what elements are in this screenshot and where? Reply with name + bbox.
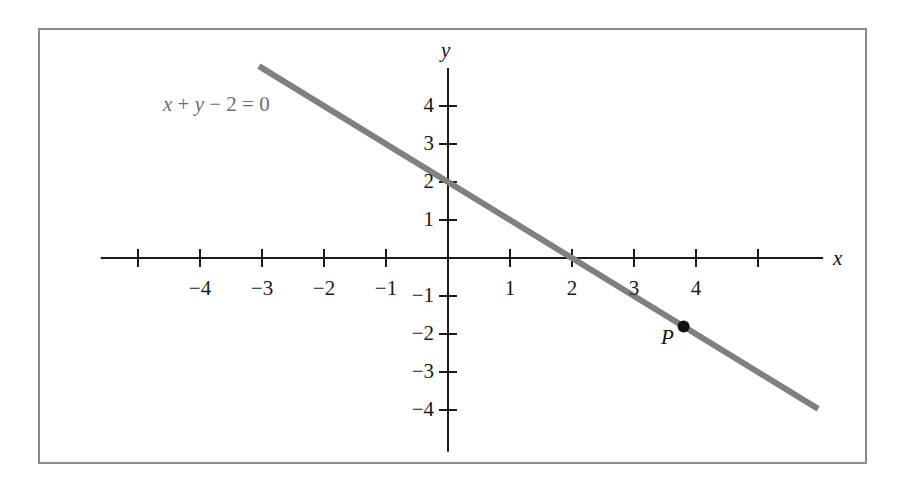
y-tick-label: −2 xyxy=(394,323,434,344)
x-tick-label: 4 xyxy=(676,278,716,299)
data-points-group xyxy=(678,320,690,332)
x-tick-label: −2 xyxy=(304,278,344,299)
y-tick-label: 4 xyxy=(394,95,434,116)
axes-group xyxy=(101,68,823,452)
equation-plus-operator: + xyxy=(172,92,194,116)
equation-x-term: x xyxy=(163,92,172,116)
x-tick-label: −3 xyxy=(242,278,282,299)
coordinate-plot xyxy=(0,0,902,489)
x-tick-label: 3 xyxy=(614,278,654,299)
plotted-line xyxy=(259,66,818,409)
y-tick-label: −3 xyxy=(394,361,434,382)
data-point-marker xyxy=(678,320,690,332)
y-tick-label: 3 xyxy=(394,133,434,154)
line-series-group xyxy=(259,66,818,409)
y-axis-label: y xyxy=(441,38,450,63)
equation-annotation: x + y − 2 = 0 xyxy=(163,92,270,117)
equation-remainder: − 2 = 0 xyxy=(204,92,270,116)
x-tick-label: 1 xyxy=(490,278,530,299)
x-axis-label: x xyxy=(833,246,842,271)
figure-container: x + y − 2 = 0 P x y −4−3−2−112344321−1−2… xyxy=(0,0,902,489)
y-tick-label: −1 xyxy=(394,285,434,306)
y-tick-label: 2 xyxy=(394,171,434,192)
y-tick-label: 1 xyxy=(394,209,434,230)
y-tick-label: −4 xyxy=(394,399,434,420)
point-p-label: P xyxy=(661,325,674,350)
x-tick-label: −4 xyxy=(180,278,220,299)
equation-y-term: y xyxy=(195,92,204,116)
x-tick-label: 2 xyxy=(552,278,592,299)
